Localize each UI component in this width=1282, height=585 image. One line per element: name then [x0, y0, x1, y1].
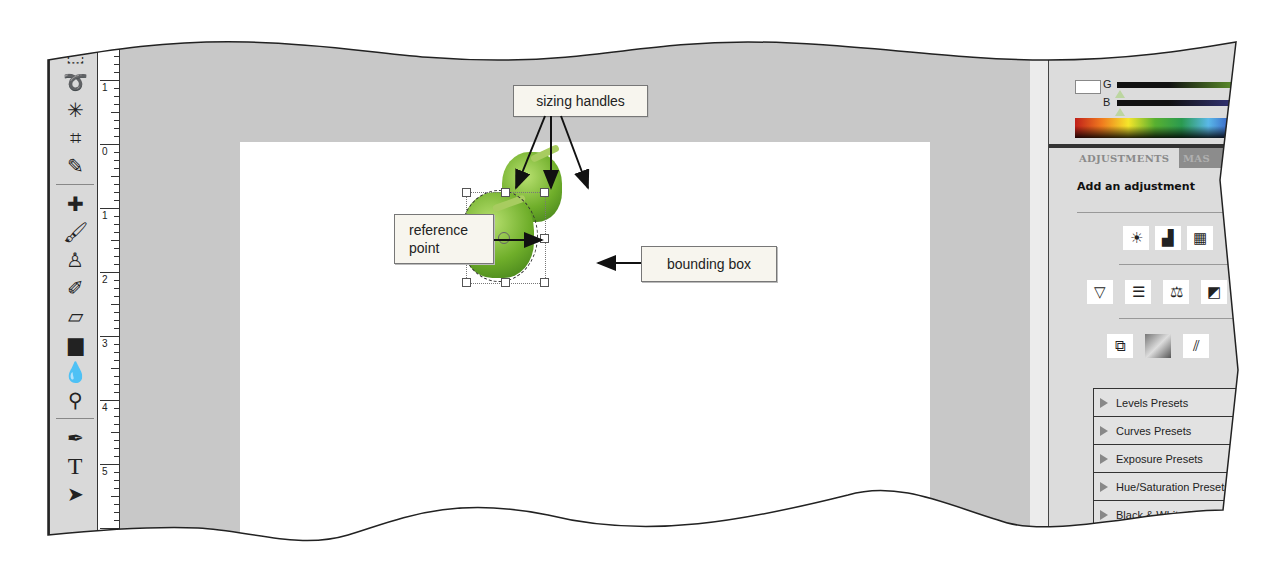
- sizing-handle-bottom-right[interactable]: [540, 278, 549, 287]
- ruler-tick: [114, 376, 119, 377]
- ruler-tick: [114, 320, 119, 321]
- black-white-icon[interactable]: ◩: [1201, 280, 1227, 304]
- b-slider-thumb[interactable]: [1115, 108, 1125, 116]
- ruler-tick: [114, 72, 119, 73]
- pen-tool-icon[interactable]: ✒: [60, 424, 90, 452]
- clone-stamp-tool-icon[interactable]: ♙: [60, 246, 90, 274]
- ruler-tick: [114, 280, 119, 281]
- b-label: B: [1103, 96, 1110, 108]
- preset-curves[interactable]: Curves Presets: [1094, 417, 1250, 445]
- eraser-tool-icon[interactable]: ▱: [60, 302, 90, 330]
- orange-pepper: [498, 542, 548, 572]
- ruler-label: 2: [102, 274, 108, 285]
- ruler-label: 4: [102, 402, 108, 413]
- ruler-tick: [114, 104, 119, 105]
- gradient-tool-icon[interactable]: ▆: [60, 330, 90, 358]
- ruler-tick: [114, 416, 119, 417]
- ruler-tick: [114, 480, 119, 481]
- ruler-tick: [111, 560, 119, 561]
- preset-exposure[interactable]: Exposure Presets: [1094, 445, 1250, 473]
- callout-bounding-box: bounding box: [641, 246, 777, 282]
- ruler-tick: [111, 304, 119, 305]
- ruler-tick: [114, 184, 119, 185]
- rectangular-marquee-tool-icon[interactable]: ⬚: [60, 40, 90, 68]
- vertical-ruler: 1 0 1 2 3 4 5 6: [100, 40, 120, 580]
- ruler-tick: [111, 336, 119, 337]
- ruler-tick: [111, 48, 119, 49]
- path-selection-tool-icon[interactable]: ➤: [60, 480, 90, 508]
- ruler-label: 6: [102, 530, 108, 541]
- spot-healing-brush-tool-icon[interactable]: ✚: [60, 190, 90, 218]
- ruler-tick: [114, 424, 119, 425]
- gradient-map-icon[interactable]: [1145, 334, 1171, 358]
- levels-icon[interactable]: ▟: [1155, 226, 1181, 250]
- blur-tool-icon[interactable]: 💧: [60, 358, 90, 386]
- sizing-handle-top-left[interactable]: [462, 188, 471, 197]
- sizing-handle-top-center[interactable]: [501, 188, 510, 197]
- type-tool-icon[interactable]: T: [60, 452, 90, 480]
- g-slider-track[interactable]: [1117, 82, 1247, 88]
- tab-adjustments[interactable]: ADJUSTMENTS: [1075, 148, 1183, 168]
- ruler-tick: [111, 432, 119, 433]
- ruler-tick: [111, 144, 119, 145]
- ruler-tick: [111, 240, 119, 241]
- reference-point-icon[interactable]: [498, 232, 510, 244]
- preset-label: Exposure Presets: [1116, 453, 1203, 465]
- preset-label: Levels Presets: [1116, 397, 1188, 409]
- expand-triangle-icon: [1100, 510, 1108, 520]
- tab-masks[interactable]: MAS: [1179, 148, 1243, 168]
- right-panel: G B ADJUSTMENTS MAS Add an adjustment ☀ …: [1048, 40, 1249, 580]
- panel-divider: [1119, 264, 1249, 265]
- crop-tool-icon[interactable]: ⌗: [60, 124, 90, 152]
- preset-black-white[interactable]: Black & White Presets: [1094, 501, 1250, 529]
- ruler-tick: [114, 472, 119, 473]
- sizing-handle-bottom-left[interactable]: [462, 278, 471, 287]
- expand-triangle-icon: [1100, 426, 1108, 436]
- curves-icon[interactable]: ▦: [1187, 226, 1213, 250]
- sizing-handle-top-right[interactable]: [540, 188, 549, 197]
- hue-saturation-icon[interactable]: ☰: [1125, 280, 1151, 304]
- expand-triangle-icon: [1100, 398, 1108, 408]
- ruler-tick: [114, 440, 119, 441]
- sizing-handle-bottom-center[interactable]: [501, 278, 510, 287]
- photo-filter-icon[interactable]: ⧉: [1107, 334, 1133, 358]
- ruler-label: 3: [102, 338, 108, 349]
- ruler-tick: [114, 344, 119, 345]
- g-slider-thumb[interactable]: [1115, 90, 1125, 98]
- ruler-tick: [114, 568, 119, 569]
- ruler-tick: [114, 88, 119, 89]
- ruler-tick: [114, 392, 119, 393]
- tools-separator: [56, 184, 94, 185]
- preset-channel-mixer[interactable]: Channel Mixer Presets: [1094, 529, 1250, 557]
- preset-hue-saturation[interactable]: Hue/Saturation Presets: [1094, 473, 1250, 501]
- sizing-handle-middle-right[interactable]: [540, 234, 549, 243]
- brightness-contrast-icon[interactable]: ☀: [1123, 226, 1149, 250]
- ruler-tick: [114, 168, 119, 169]
- brush-tool-icon[interactable]: 🖌: [60, 218, 90, 246]
- magic-wand-tool-icon[interactable]: ✳: [60, 96, 90, 124]
- history-brush-tool-icon[interactable]: ✐: [60, 274, 90, 302]
- vibrance-icon[interactable]: ▽: [1087, 280, 1113, 304]
- dodge-tool-icon[interactable]: ⚲: [60, 386, 90, 414]
- ruler-tick: [111, 528, 119, 529]
- color-swatch[interactable]: [1075, 80, 1101, 94]
- tools-separator: [56, 418, 94, 419]
- b-slider-track[interactable]: [1117, 100, 1247, 106]
- ruler-tick: [114, 448, 119, 449]
- document-canvas[interactable]: [240, 142, 930, 582]
- ruler-tick: [114, 312, 119, 313]
- lasso-tool-icon[interactable]: ➰: [60, 68, 90, 96]
- eyedropper-tool-icon[interactable]: ✎: [60, 152, 90, 180]
- ruler-label: 1: [102, 82, 108, 93]
- color-spectrum-bar[interactable]: [1075, 118, 1235, 138]
- ruler-tick: [114, 96, 119, 97]
- preset-levels[interactable]: Levels Presets: [1094, 389, 1250, 417]
- tools-panel: ⬚ ➰ ✳ ⌗ ✎ ✚ 🖌 ♙ ✐ ▱ ▆ 💧 ⚲ ✒ T ➤: [48, 40, 98, 580]
- ruler-tick: [114, 128, 119, 129]
- color-balance-icon[interactable]: ⚖: [1163, 280, 1189, 304]
- ruler-tick: [114, 248, 119, 249]
- ruler-tick: [114, 40, 119, 41]
- panel-divider: [1119, 318, 1249, 319]
- selective-color-icon[interactable]: ⫽: [1183, 334, 1209, 358]
- preset-label: Black & White Presets: [1116, 509, 1225, 521]
